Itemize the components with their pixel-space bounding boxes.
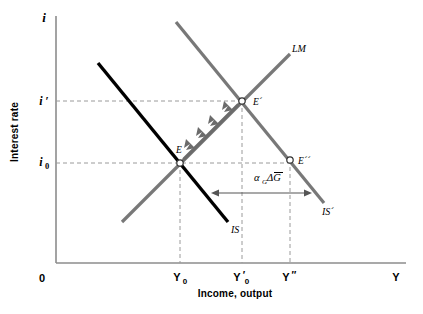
y-tick-label-iprime: i ′ — [39, 94, 48, 108]
point-label-E: E — [175, 145, 182, 155]
x-tick-base-Ydoubleprime: Y — [282, 271, 290, 283]
x-tick-label-Ydoubleprime: Y ″ — [282, 270, 296, 283]
chevron-3 — [208, 115, 219, 126]
y-tick-prime-iprime: ′ — [45, 94, 48, 108]
curve-label-LM: LM — [291, 43, 307, 54]
x-tick-base-Y0: Y — [173, 271, 181, 283]
equilibrium-marker-E[interactable] — [177, 160, 183, 166]
x-tick-labels-group: Y 0 Y ′ 0 Y ″ — [173, 270, 296, 286]
x-tick-sub-Y0: 0 — [183, 277, 188, 286]
adjustment-arrow-chevrons — [184, 101, 233, 150]
x-axis-symbol: Y — [392, 271, 400, 283]
chevron-2 — [196, 127, 207, 138]
islm-diagram-svg: LM IS IS´ E E´ E´´ α G ΔG i Y 0 i ′ i 0 — [0, 0, 423, 314]
point-label-E-double-prime: E´´ — [297, 156, 311, 166]
y-tick-label-i0: i 0 — [39, 155, 49, 171]
x-tick-sub-Y0prime: 0 — [245, 277, 250, 286]
chevron-4 — [222, 101, 233, 112]
equilibrium-marker-E-prime[interactable] — [239, 98, 245, 104]
y-axis-symbol: i — [42, 10, 46, 25]
shift-arrow-head-left — [211, 190, 219, 197]
origin-label: 0 — [39, 272, 45, 284]
x-tick-label-Y0prime: Y ′ 0 — [233, 270, 249, 286]
y-tick-sub-i0: 0 — [45, 161, 49, 171]
formula-alpha: α — [254, 172, 260, 183]
shift-annotation-group — [211, 190, 312, 197]
x-tick-prime-Ydoubleprime: ″ — [292, 270, 297, 281]
equilibrium-marker-E-double-prime[interactable] — [287, 157, 293, 163]
y-tick-base-i0: i — [39, 155, 43, 169]
chevron-1 — [184, 139, 195, 150]
curve-label-IS: IS — [230, 224, 239, 235]
x-tick-label-Y0: Y 0 — [173, 271, 187, 286]
x-tick-base-Y0prime: Y — [233, 271, 241, 283]
y-tick-labels-group: i ′ i 0 — [39, 94, 49, 171]
curve-label-IS-prime: IS´ — [321, 206, 334, 217]
y-axis-title: Interest rate — [9, 102, 20, 162]
curve-line-IS[interactable] — [98, 63, 228, 222]
shift-arrow-head-right — [304, 190, 312, 197]
shift-annotation-formula: α G ΔG — [254, 172, 283, 186]
adjustment-arrow-group — [184, 101, 238, 159]
adjustment-arrow-shaft — [184, 105, 238, 159]
point-label-E-prime: E´ — [252, 97, 263, 107]
x-axis-title: Income, output — [198, 288, 273, 299]
formula-delta-gbar: ΔG — [266, 172, 281, 183]
y-tick-base-iprime: i — [39, 94, 43, 108]
islm-figure: LM IS IS´ E E´ E´´ α G ΔG i Y 0 i ′ i 0 — [0, 0, 423, 314]
